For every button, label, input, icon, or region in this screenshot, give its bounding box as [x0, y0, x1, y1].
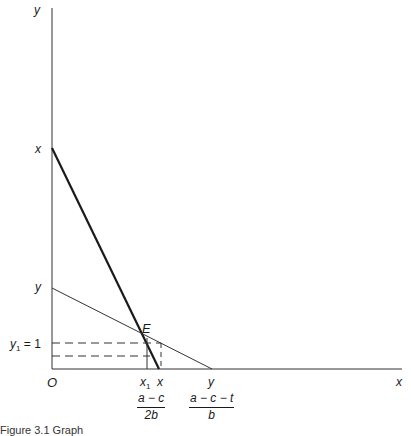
thick-line-y-intercept-label: x: [35, 143, 41, 155]
y-axis-label: y: [34, 4, 40, 16]
figure-caption: Figure 3.1 Graph: [0, 424, 83, 436]
fraction-a-minus-c-minus-t-over-b: a − c − t b: [189, 392, 234, 423]
fraction-denominator: 2b: [137, 408, 165, 423]
fraction-denominator: b: [189, 408, 234, 423]
y-tick-label: y: [208, 376, 214, 388]
fraction-numerator: a − c: [137, 392, 165, 408]
fraction-a-minus-c-over-2b: a − c 2b: [137, 392, 165, 423]
y1-value: = 1: [20, 337, 40, 351]
thin-line-y-intercept-label: y: [35, 281, 41, 293]
x1-label: x1: [140, 376, 150, 391]
point-e-label: E: [142, 322, 151, 335]
origin-label: O: [47, 376, 57, 389]
y1-label: y1 = 1: [10, 338, 41, 353]
x-axis-label: x: [396, 376, 402, 388]
fraction-numerator: a − c − t: [189, 392, 234, 408]
thin-line: [52, 288, 212, 369]
x-tick-label: x: [157, 376, 163, 388]
